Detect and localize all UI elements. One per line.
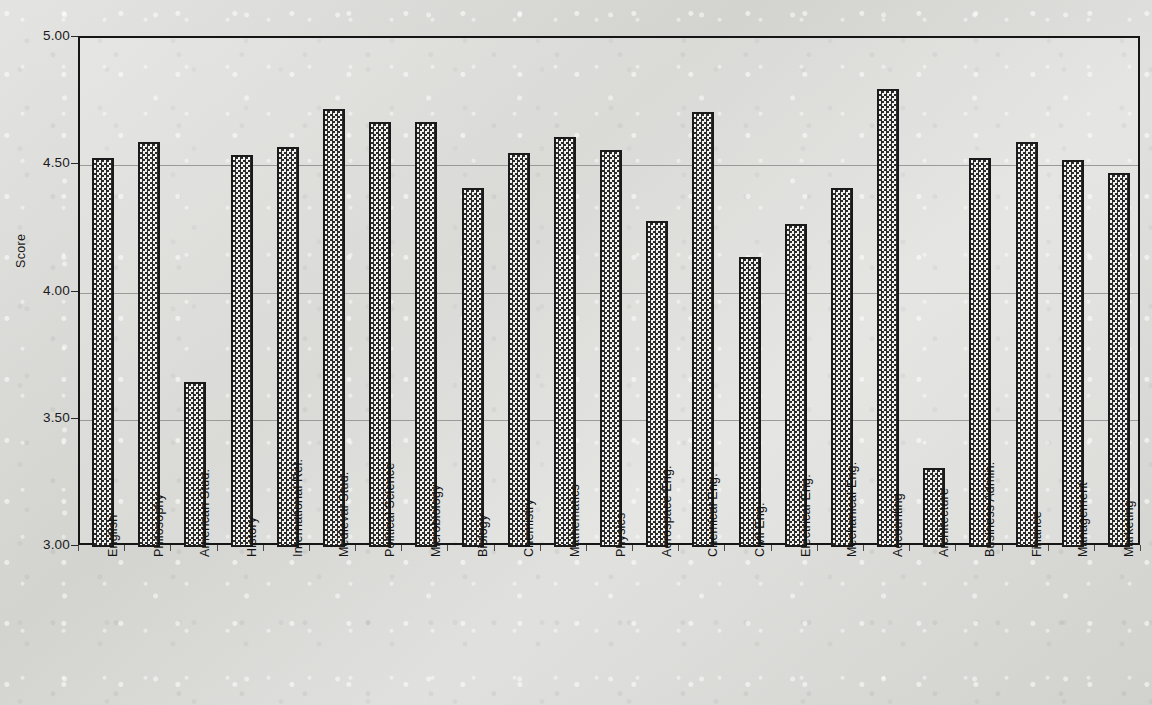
x-axis-category-label: Electrical Eng. xyxy=(799,474,813,557)
x-axis-tick-mark xyxy=(586,545,587,551)
x-axis-category-label: Microbiology xyxy=(429,484,443,557)
x-axis-tick-mark xyxy=(1048,545,1049,551)
x-axis-category-label: English xyxy=(106,515,120,557)
x-axis-category-label: Management xyxy=(1076,482,1090,557)
x-axis-tick-mark xyxy=(78,545,79,551)
bar xyxy=(462,188,484,547)
x-axis-category-label: American Stud. xyxy=(198,469,212,557)
x-axis-tick-mark xyxy=(124,545,125,551)
y-axis-tick-label: 4.00 xyxy=(30,283,70,298)
bar xyxy=(92,158,114,547)
bar-chart: Score 5.004.504.003.503.00 EnglishPhilos… xyxy=(0,0,1152,705)
plot-area xyxy=(78,36,1140,545)
x-axis-category-label: Medieval Stud. xyxy=(337,472,351,557)
x-axis-tick-mark xyxy=(355,545,356,551)
x-axis-category-label: Architecture xyxy=(937,488,951,557)
x-axis-tick-mark xyxy=(217,545,218,551)
x-axis-category-label: Chemistry xyxy=(522,499,536,557)
y-axis-tick-mark xyxy=(71,163,78,164)
x-axis-category-label: Mechanical Eng. xyxy=(845,462,859,557)
x-axis-category-label: International Rel. xyxy=(291,459,305,557)
x-axis-tick-mark xyxy=(863,545,864,551)
x-axis-tick-mark xyxy=(447,545,448,551)
x-axis-category-label: Civil Eng. xyxy=(753,502,767,557)
bar xyxy=(1016,142,1038,547)
x-axis-tick-mark xyxy=(1002,545,1003,551)
y-axis-tick-mark xyxy=(71,291,78,292)
x-axis-tick-mark xyxy=(494,545,495,551)
y-axis-tick-mark xyxy=(71,418,78,419)
x-axis-tick-mark xyxy=(401,545,402,551)
y-axis-tick-label: 5.00 xyxy=(30,28,70,43)
x-axis-tick-mark xyxy=(678,545,679,551)
x-axis-tick-mark xyxy=(909,545,910,551)
x-axis-tick-mark xyxy=(309,545,310,551)
x-axis-category-label: Political Science xyxy=(383,463,397,557)
bar xyxy=(508,153,530,548)
x-axis-category-label: Biology xyxy=(476,515,490,557)
x-axis-tick-mark xyxy=(955,545,956,551)
y-axis-tick-label: 3.50 xyxy=(30,410,70,425)
y-axis-tick-mark xyxy=(71,36,78,37)
x-axis-tick-mark xyxy=(1094,545,1095,551)
x-axis-tick-mark xyxy=(540,545,541,551)
x-axis-tick-mark xyxy=(1140,545,1141,551)
x-axis-category-label: Philosophy xyxy=(152,494,166,557)
x-axis-category-label: Chemical Eng. xyxy=(706,473,720,557)
x-axis-category-label: Mathematics xyxy=(568,484,582,557)
x-axis-category-label: Finance xyxy=(1030,511,1044,557)
x-axis-category-label: Aerospace Eng. xyxy=(660,465,674,557)
x-axis-category-label: History xyxy=(245,517,259,557)
bar xyxy=(231,155,253,547)
y-axis-tick-mark xyxy=(71,545,78,546)
x-axis-tick-mark xyxy=(632,545,633,551)
bar xyxy=(138,142,160,547)
x-axis-category-label: Business Admin. xyxy=(983,462,997,557)
x-axis-category-label: Marketing xyxy=(1122,500,1136,557)
x-axis-tick-mark xyxy=(724,545,725,551)
x-axis-tick-mark xyxy=(771,545,772,551)
bar xyxy=(1108,173,1130,547)
x-axis-tick-mark xyxy=(263,545,264,551)
x-axis-category-label: Physics xyxy=(614,513,628,557)
bar xyxy=(600,150,622,547)
y-axis-tick-label: 3.00 xyxy=(30,537,70,552)
x-axis-category-label: Accounting xyxy=(891,493,905,557)
bar xyxy=(877,89,899,547)
y-axis-title: Score xyxy=(14,234,28,268)
x-axis-tick-mark xyxy=(170,545,171,551)
x-axis-tick-mark xyxy=(817,545,818,551)
y-axis-tick-label: 4.50 xyxy=(30,155,70,170)
